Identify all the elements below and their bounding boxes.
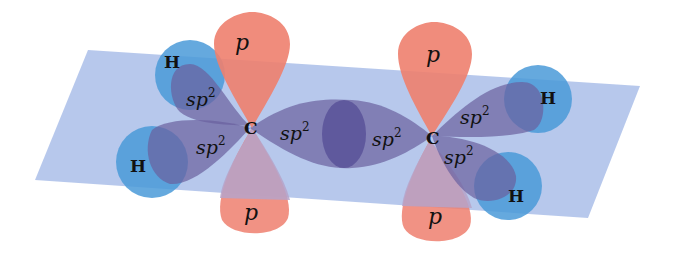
label-h-top-right: H [540,88,556,108]
label-sp2-right-lower: sp2 [444,146,474,168]
label-p-top-right: p [426,42,440,67]
label-carbon-right: C [426,128,440,148]
label-h-top-left: H [164,52,180,72]
label-sp2-right-upper: sp2 [460,106,490,128]
label-p-top-left: p [235,30,249,55]
label-p-bottom-right: p [428,204,442,229]
label-sp2-sigma-right: sp2 [372,128,402,150]
label-p-bottom-left: p [244,200,258,225]
label-sp2-sigma-left: sp2 [280,122,310,144]
label-sp2-left-lower: sp2 [196,136,226,158]
label-h-bottom-right: H [508,186,524,206]
label-carbon-left: C [244,118,258,138]
label-sp2-left-upper: sp2 [186,88,216,110]
label-h-bottom-left: H [130,156,146,176]
orbital-diagram [0,0,684,254]
